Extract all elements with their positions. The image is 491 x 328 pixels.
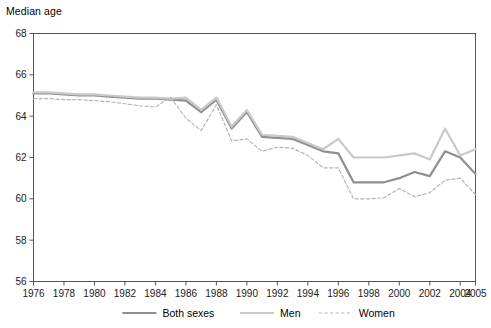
- x-tick-label: 2005: [464, 288, 487, 299]
- y-tick-label: 62: [15, 152, 27, 163]
- series-line-women: [34, 98, 476, 199]
- x-tick-label: 1996: [327, 288, 350, 299]
- x-tick-label: 1986: [175, 288, 198, 299]
- legend-label-both-sexes: Both sexes: [162, 307, 214, 319]
- y-tick-label: 66: [15, 69, 27, 80]
- x-tick-label: 1982: [114, 288, 137, 299]
- legend-label-men: Men: [280, 307, 301, 319]
- chart-legend: Both sexesMenWomen: [122, 307, 394, 319]
- series-layer: [34, 92, 476, 198]
- x-tick-label: 1980: [83, 288, 106, 299]
- x-tick-label: 1984: [144, 288, 167, 299]
- x-tick-label: 2000: [388, 288, 411, 299]
- x-tick-label: 1992: [266, 288, 289, 299]
- median-age-chart: Median age 19761978198019821984198619881…: [0, 0, 491, 328]
- axes-layer: [30, 34, 476, 286]
- x-tick-label: 2002: [419, 288, 442, 299]
- x-tick-label: 1978: [53, 288, 76, 299]
- legend-label-women: Women: [359, 307, 395, 319]
- y-tick-labels: 56586062646668: [15, 28, 27, 287]
- x-tick-label: 1990: [236, 288, 259, 299]
- x-tick-label: 1976: [22, 288, 45, 299]
- series-line-both-sexes: [34, 93, 476, 182]
- x-tick-labels: 1976197819801982198419861988199019921994…: [22, 288, 487, 299]
- x-tick-label: 1988: [205, 288, 228, 299]
- y-tick-label: 60: [15, 193, 27, 204]
- chart-plot-area: 1976197819801982198419861988199019921994…: [0, 0, 491, 328]
- x-tick-label: 1998: [358, 288, 381, 299]
- y-tick-label: 68: [15, 28, 27, 39]
- y-tick-label: 64: [15, 111, 27, 122]
- y-tick-label: 58: [15, 235, 27, 246]
- x-tick-label: 1994: [297, 288, 320, 299]
- plot-frame: [34, 34, 476, 282]
- y-tick-label: 56: [15, 276, 27, 287]
